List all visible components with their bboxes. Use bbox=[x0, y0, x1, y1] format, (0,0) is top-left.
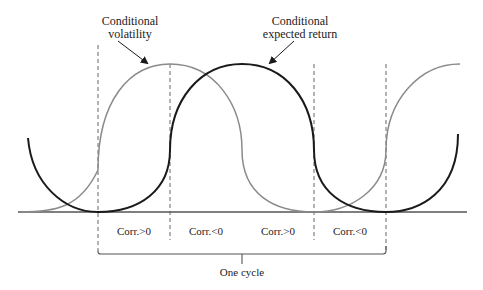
volatility-arrow-icon bbox=[118, 41, 147, 63]
return-annotation: Conditional expected return bbox=[263, 14, 337, 63]
volatility-label-line1: Conditional bbox=[102, 14, 159, 28]
region-label-1: Corr.>0 bbox=[117, 225, 152, 237]
cycle-bracket bbox=[98, 246, 386, 264]
region-label-4: Corr.<0 bbox=[333, 225, 368, 237]
region-label-2: Corr.<0 bbox=[189, 225, 224, 237]
return-label-line1: Conditional bbox=[272, 14, 329, 28]
region-labels: Corr.>0 Corr.<0 Corr.>0 Corr.<0 bbox=[117, 225, 368, 237]
volatility-curve bbox=[20, 64, 460, 212]
expected-return-curve bbox=[28, 64, 458, 212]
volatility-annotation: Conditional volatility bbox=[102, 14, 159, 63]
return-label-line2: expected return bbox=[263, 27, 337, 41]
return-arrow-icon bbox=[270, 41, 294, 63]
volatility-label-line2: volatility bbox=[108, 27, 151, 41]
cycle-diagram: Conditional volatility Conditional expec… bbox=[0, 0, 483, 290]
region-label-3: Corr.>0 bbox=[261, 225, 296, 237]
cycle-label: One cycle bbox=[220, 266, 264, 278]
